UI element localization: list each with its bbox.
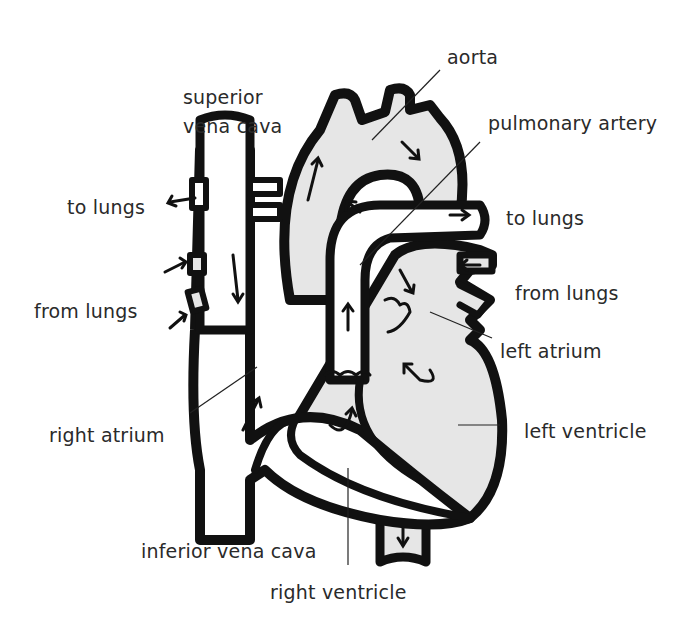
label-pulmonary-artery: pulmonary artery	[488, 112, 657, 134]
label-inferior-vena-cava: inferior vena cava	[141, 540, 317, 562]
from-lungs-left-vessel-2	[188, 289, 207, 312]
label-aorta: aorta	[447, 46, 498, 68]
label-superior-vena-cava-line1: superior	[183, 86, 263, 108]
superior-vena-cava	[200, 115, 250, 330]
label-to-lungs-right: to lungs	[506, 207, 584, 229]
label-right-atrium: right atrium	[49, 424, 165, 446]
label-right-ventricle: right ventricle	[270, 581, 407, 603]
label-to-lungs-left: to lungs	[67, 196, 145, 218]
label-from-lungs-left: from lungs	[34, 300, 138, 322]
label-from-lungs-right: from lungs	[515, 282, 619, 304]
label-left-ventricle: left ventricle	[524, 420, 647, 442]
label-left-atrium: left atrium	[500, 340, 602, 362]
to-lungs-left-vessel	[192, 180, 206, 208]
label-superior-vena-cava-line2: vena cava	[183, 115, 282, 137]
from-lungs-left-vessel-1	[190, 255, 204, 273]
